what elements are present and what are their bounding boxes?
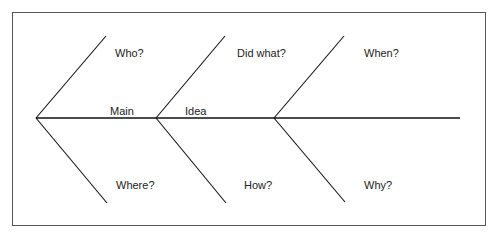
- label-when: When?: [364, 47, 399, 59]
- label-where: Where?: [116, 179, 155, 191]
- bone-who: [36, 36, 106, 118]
- label-how: How?: [244, 179, 272, 191]
- bone-how: [156, 118, 226, 203]
- fishbone-diagram: [0, 0, 496, 234]
- bone-where: [36, 118, 107, 203]
- label-did-what: Did what?: [237, 47, 286, 59]
- label-who: Who?: [115, 47, 144, 59]
- bone-why: [274, 118, 345, 202]
- label-idea: Idea: [185, 105, 206, 117]
- label-why: Why?: [364, 179, 392, 191]
- label-main: Main: [110, 105, 134, 117]
